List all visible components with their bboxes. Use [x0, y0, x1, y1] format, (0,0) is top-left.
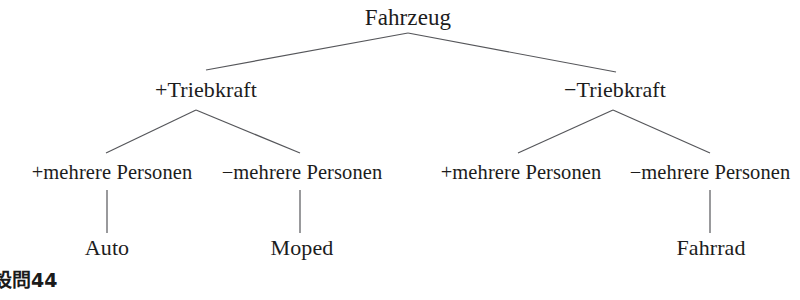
edge-left-to-b: [196, 110, 300, 153]
figure-caption: 設問44: [0, 271, 57, 290]
edge-left-to-a: [106, 110, 196, 153]
leaf-node-auto: Auto: [85, 237, 129, 259]
node-minus-triebkraft: −Triebkraft: [564, 79, 666, 101]
edge-right-to-d: [613, 110, 710, 153]
node-left-plus-mehrere-personen: +mehrere Personen: [32, 162, 193, 183]
edge-root-to-left: [206, 33, 408, 70]
edge-root-to-right: [408, 33, 616, 72]
node-fahrzeug: Fahrzeug: [365, 6, 451, 29]
leaf-node-moped: Moped: [271, 237, 334, 259]
edge-right-to-c: [518, 110, 613, 153]
node-right-plus-mehrere-personen: +mehrere Personen: [441, 162, 602, 183]
leaf-node-fahrrad: Fahrrad: [676, 237, 745, 259]
node-right-minus-mehrere-personen: −mehrere Personen: [630, 162, 791, 183]
node-plus-triebkraft: +Triebkraft: [155, 79, 257, 101]
diagram-canvas: Fahrzeug +Triebkraft −Triebkraft +mehrer…: [0, 0, 800, 300]
node-left-minus-mehrere-personen: −mehrere Personen: [222, 162, 383, 183]
